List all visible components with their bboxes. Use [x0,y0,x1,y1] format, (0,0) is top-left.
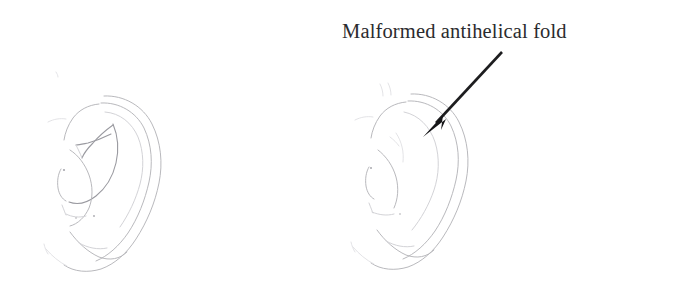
antihelix-inferior-crus [76,134,111,145]
pencil-speck [370,167,372,169]
helix-inner-edge [403,101,458,259]
pencil-speck [75,217,77,219]
concha-bowl [70,150,92,226]
hair-wisp [388,83,391,95]
annotation-label: Malformed antihelical fold [342,20,567,42]
pencil-speck [399,213,401,215]
jaw-wisp [44,244,48,254]
intertragic-notch [62,205,66,215]
earlobe-crease [79,243,107,249]
figure-svg: Malformed antihelical fold [0,0,685,290]
antihelix-superior-crus [82,125,113,158]
tragus [58,169,66,201]
cheek-wisp-lower [46,249,67,266]
earlobe-crease [386,241,414,247]
jaw-wisp [351,242,355,252]
cheek-wisp-lower [353,247,374,264]
figure-canvas: Malformed antihelical fold [0,0,685,290]
tragus [366,167,374,199]
arrow-shaft [436,52,502,123]
antihelix-fold [69,124,118,203]
helix-outer-contour [371,94,468,269]
cheek-wisp-upper [48,119,66,122]
concha-bowl [378,150,398,208]
absent-antihelix-vestige [396,133,403,162]
hair-wisp [56,72,58,77]
pencil-speck [93,215,95,217]
malformed-ear-drawing [351,83,468,269]
flattened-scapha [404,112,438,230]
helix-crus [371,102,406,138]
scapha-groove [105,112,143,227]
antitragus [372,212,394,215]
absent-antihelix-vestige [390,137,399,146]
pencil-speck [63,169,65,171]
hair-wisp [380,84,383,96]
annotation-arrow [423,52,502,137]
helix-crus [64,104,99,140]
helix-outer-contour [64,96,161,271]
helix-inner-edge [96,103,151,261]
cheek-wisp-upper [355,117,373,120]
intertragic-notch [369,203,373,213]
antitragus [66,214,86,217]
normal-ear-drawing [44,72,161,271]
